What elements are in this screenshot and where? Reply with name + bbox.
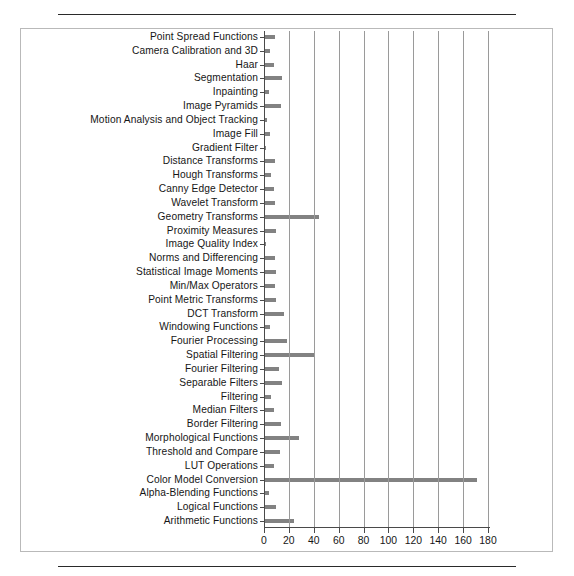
y-axis-tick [260, 65, 264, 66]
y-axis-tick [260, 148, 264, 149]
bar [265, 339, 287, 343]
gridline [463, 31, 464, 527]
bar [265, 49, 270, 53]
y-axis-tick [260, 397, 264, 398]
bar [265, 381, 282, 385]
x-axis-tick-label: 100 [380, 535, 397, 546]
bar [265, 436, 299, 440]
x-axis-tick [289, 528, 290, 533]
gridline [413, 31, 414, 527]
y-axis-tick [260, 369, 264, 370]
bar [265, 201, 275, 205]
y-axis-tick [260, 92, 264, 93]
x-axis-tick-label: 60 [333, 535, 345, 546]
x-axis-line [264, 527, 490, 528]
bar [265, 478, 477, 482]
bar [265, 450, 280, 454]
bar [265, 367, 279, 371]
category-label: Gradient Filter [192, 142, 258, 153]
x-axis-tick [413, 528, 414, 533]
y-axis-tick [260, 37, 264, 38]
category-label: LUT Operations [185, 460, 258, 471]
y-axis-tick [260, 258, 264, 259]
category-label: Point Metric Transforms [148, 294, 258, 305]
bar [265, 187, 274, 191]
y-axis-tick [260, 438, 264, 439]
x-axis-tick-label: 20 [283, 535, 295, 546]
gridline [488, 31, 489, 527]
page-rule-bottom [58, 566, 516, 567]
category-label: Statistical Image Moments [136, 266, 258, 277]
x-axis-tick-label: 180 [479, 535, 496, 546]
bar [265, 229, 276, 233]
category-label: Windowing Functions [159, 321, 258, 332]
y-axis-tick [260, 466, 264, 467]
category-label: Threshold and Compare [146, 446, 258, 457]
y-axis-tick [260, 327, 264, 328]
x-axis-tick [339, 528, 340, 533]
category-label: Motion Analysis and Object Tracking [90, 114, 258, 125]
category-label: Fourier Filtering [185, 363, 258, 374]
category-label: Arithmetic Functions [164, 515, 258, 526]
x-axis-tick-label: 80 [358, 535, 370, 546]
bar-chart: Point Spread FunctionsCamera Calibration… [21, 29, 554, 553]
gridline [438, 31, 439, 527]
gridline [314, 31, 315, 527]
x-axis-tick [463, 528, 464, 533]
category-label: Point Spread Functions [150, 31, 258, 42]
category-axis-labels: Point Spread FunctionsCamera Calibration… [21, 29, 264, 527]
category-label: Norms and Differencing [149, 252, 258, 263]
y-axis-tick [260, 314, 264, 315]
page-rule-top [58, 14, 516, 15]
category-label: Min/Max Operators [170, 280, 258, 291]
bar [265, 118, 267, 122]
x-axis-tick [438, 528, 439, 533]
x-axis-tick [388, 528, 389, 533]
x-axis-tick-label: 40 [308, 535, 320, 546]
category-label: Median Filters [193, 404, 258, 415]
bar [265, 146, 266, 150]
y-axis-tick [260, 175, 264, 176]
category-label: Hough Transforms [173, 169, 258, 180]
gridline [364, 31, 365, 527]
bar [265, 312, 284, 316]
category-label: Image Quality Index [165, 238, 258, 249]
category-label: Alpha-Blending Functions [140, 487, 259, 498]
bar [265, 215, 319, 219]
y-axis-tick [260, 480, 264, 481]
x-axis-tick-label: 0 [261, 535, 267, 546]
category-label: Filtering [221, 391, 258, 402]
category-label: Fourier Processing [171, 335, 258, 346]
x-axis-tick [314, 528, 315, 533]
bar [265, 35, 275, 39]
y-axis-tick [260, 161, 264, 162]
y-axis-tick [260, 424, 264, 425]
category-label: Geometry Transforms [158, 211, 258, 222]
bar [265, 325, 270, 329]
y-axis-tick [260, 355, 264, 356]
bar [265, 242, 266, 246]
category-label: Morphological Functions [145, 432, 258, 443]
category-label: Image Pyramids [183, 100, 258, 111]
y-axis-tick [260, 272, 264, 273]
category-label: Canny Edge Detector [159, 183, 258, 194]
bar [265, 464, 274, 468]
y-axis-tick [260, 452, 264, 453]
bar [265, 422, 281, 426]
y-axis-tick [260, 120, 264, 121]
gridline [289, 31, 290, 527]
x-axis-tick-label: 120 [405, 535, 422, 546]
y-axis-tick [260, 383, 264, 384]
category-label: Image Fill [213, 128, 258, 139]
y-axis-tick [260, 231, 264, 232]
category-label: Proximity Measures [167, 225, 258, 236]
y-axis-tick [260, 521, 264, 522]
category-label: Spatial Filtering [186, 349, 258, 360]
y-axis-tick [260, 300, 264, 301]
bar [265, 159, 275, 163]
y-axis-tick [260, 134, 264, 135]
y-axis-tick [260, 410, 264, 411]
category-label: Border Filtering [187, 418, 258, 429]
category-label: Haar [236, 59, 258, 70]
bar [265, 395, 271, 399]
